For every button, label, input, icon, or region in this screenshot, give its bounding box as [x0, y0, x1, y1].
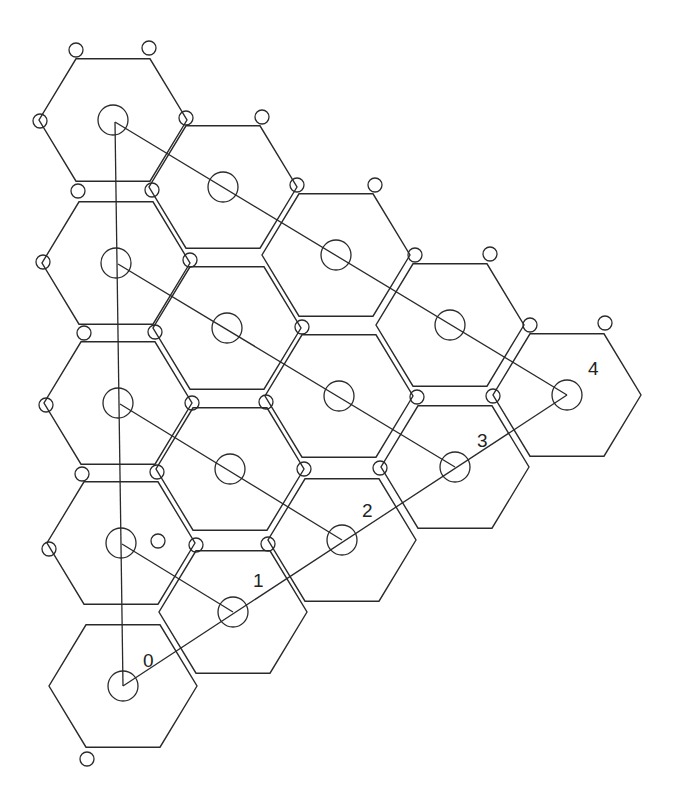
- center-marker: [101, 248, 131, 278]
- hexagon-cells: [39, 59, 641, 747]
- vertex-marker: [183, 253, 197, 267]
- vertex-markers: [33, 41, 612, 766]
- vertex-marker: [77, 326, 91, 340]
- label-1: 1: [253, 570, 264, 592]
- vertex-marker: [69, 43, 83, 57]
- vertex-marker: [523, 318, 537, 332]
- vertex-marker: [145, 183, 159, 197]
- vertex-marker: [598, 316, 612, 330]
- center-marker: [212, 313, 242, 343]
- hexagon-cell: [39, 59, 187, 181]
- vertex-marker: [373, 461, 387, 475]
- label-0: 0: [143, 650, 154, 672]
- center-marker: [103, 388, 133, 418]
- vertex-marker: [290, 178, 304, 192]
- connection-line: [120, 404, 342, 540]
- vertex-marker: [80, 752, 94, 766]
- label-4: 4: [588, 358, 599, 380]
- center-marker: [215, 454, 245, 484]
- hexagon-cell: [153, 267, 301, 389]
- vertex-marker: [151, 534, 165, 548]
- label-3: 3: [477, 430, 488, 452]
- center-marker: [98, 105, 128, 135]
- vertex-marker: [42, 542, 56, 556]
- vertex-marker: [189, 538, 203, 552]
- connection-line: [122, 544, 233, 612]
- connection-line: [123, 395, 567, 686]
- center-marker: [324, 381, 354, 411]
- hexagon-cell: [265, 335, 413, 457]
- vertex-marker: [71, 184, 85, 198]
- vertex-marker: [483, 247, 497, 261]
- hexagon-lattice-diagram: [0, 0, 676, 789]
- vertex-marker: [295, 320, 309, 334]
- connection-line: [115, 122, 123, 686]
- vertex-marker: [368, 178, 382, 192]
- vertex-marker: [255, 110, 269, 124]
- vertex-marker: [75, 467, 89, 481]
- label-2: 2: [362, 500, 373, 522]
- vertex-marker: [142, 41, 156, 55]
